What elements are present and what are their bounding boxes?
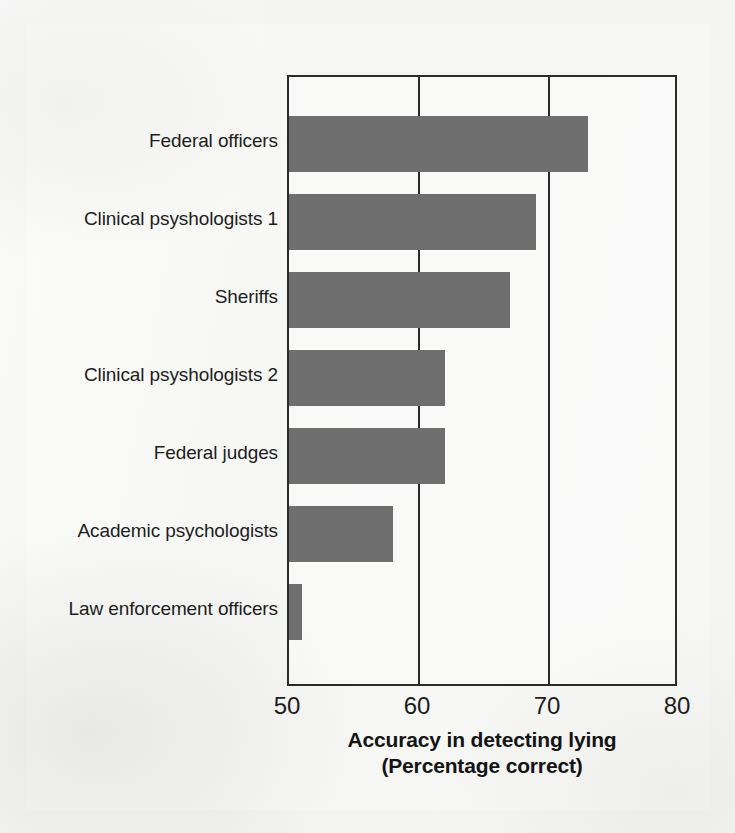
bar bbox=[289, 272, 510, 328]
category-label: Academic psychologists bbox=[18, 520, 278, 542]
bar bbox=[289, 116, 588, 172]
x-axis-tick-row: 50607080 bbox=[287, 692, 677, 722]
category-label: Federal officers bbox=[18, 130, 278, 152]
x-axis-tick-label: 50 bbox=[274, 692, 301, 720]
bar bbox=[289, 194, 536, 250]
x-axis-tick-label: 80 bbox=[664, 692, 691, 720]
category-label: Law enforcement officers bbox=[18, 598, 278, 620]
category-label: Sheriffs bbox=[18, 286, 278, 308]
bar bbox=[289, 350, 445, 406]
category-label-column: Federal officersClinical psyshologists 1… bbox=[10, 75, 278, 686]
bar bbox=[289, 506, 393, 562]
x-axis-tick-label: 70 bbox=[534, 692, 561, 720]
x-axis-title: Accuracy in detecting lying (Percentage … bbox=[287, 727, 677, 780]
bar bbox=[289, 428, 445, 484]
category-label: Federal judges bbox=[18, 442, 278, 464]
plot-area bbox=[287, 75, 677, 686]
bar bbox=[289, 584, 302, 640]
category-label: Clinical psyshologists 1 bbox=[18, 208, 278, 230]
category-label: Clinical psyshologists 2 bbox=[18, 364, 278, 386]
x-axis-title-line1: Accuracy in detecting lying bbox=[287, 727, 677, 753]
x-axis-title-line2: (Percentage correct) bbox=[287, 753, 677, 779]
figure-root: Federal officersClinical psyshologists 1… bbox=[0, 0, 735, 833]
x-axis-tick-label: 60 bbox=[404, 692, 431, 720]
